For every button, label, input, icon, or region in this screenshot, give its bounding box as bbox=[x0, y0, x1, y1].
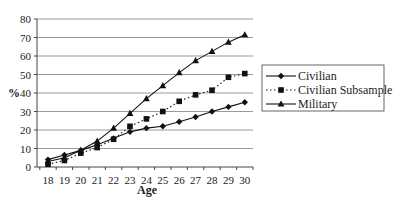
square-marker bbox=[278, 87, 284, 93]
series-group bbox=[45, 31, 249, 167]
square-marker bbox=[242, 71, 248, 77]
x-tick-label: 26 bbox=[174, 174, 186, 186]
y-tick-label: 30 bbox=[20, 106, 32, 118]
diamond-marker bbox=[176, 118, 182, 124]
x-tick-label: 27 bbox=[190, 174, 202, 186]
legend: CivilianCivilian SubsampleMilitary bbox=[262, 65, 392, 111]
triangle-marker bbox=[209, 48, 216, 54]
x-axis-label: Age bbox=[137, 183, 158, 197]
square-marker bbox=[193, 92, 199, 98]
diamond-marker bbox=[225, 104, 231, 110]
y-tick-label: 0 bbox=[26, 161, 32, 173]
y-tick-label: 50 bbox=[20, 69, 32, 81]
square-marker bbox=[209, 87, 215, 93]
square-marker bbox=[127, 124, 133, 130]
diamond-marker bbox=[242, 99, 248, 105]
triangle-marker bbox=[241, 31, 248, 37]
x-tick-label: 23 bbox=[125, 174, 137, 186]
square-marker bbox=[176, 99, 182, 105]
triangle-marker bbox=[159, 82, 166, 88]
y-axis: 01020304050607080 bbox=[20, 13, 37, 173]
triangle-marker bbox=[192, 57, 199, 63]
y-tick-label: 10 bbox=[20, 143, 32, 155]
square-marker bbox=[144, 116, 150, 122]
square-marker bbox=[111, 136, 117, 142]
diamond-marker bbox=[192, 114, 198, 120]
x-tick-label: 19 bbox=[59, 174, 71, 186]
triangle-marker bbox=[94, 138, 101, 144]
y-tick-label: 40 bbox=[20, 87, 32, 99]
x-tick-label: 29 bbox=[223, 174, 235, 186]
x-tick-label: 21 bbox=[92, 174, 103, 186]
x-tick-label: 25 bbox=[157, 174, 169, 186]
x-tick-label: 18 bbox=[43, 174, 55, 186]
y-tick-label: 60 bbox=[20, 50, 32, 62]
x-tick-label: 20 bbox=[75, 174, 87, 186]
square-marker bbox=[160, 109, 166, 115]
legend-label: Civilian Subsample bbox=[298, 83, 392, 97]
diamond-marker bbox=[209, 108, 215, 114]
y-tick-label: 80 bbox=[20, 13, 32, 25]
legend-label: Military bbox=[298, 97, 337, 111]
triangle-marker bbox=[176, 69, 183, 75]
x-tick-label: 30 bbox=[239, 174, 251, 186]
x-tick-label: 22 bbox=[108, 174, 119, 186]
square-marker bbox=[94, 145, 100, 151]
triangle-marker bbox=[143, 95, 150, 101]
y-tick-label: 20 bbox=[20, 124, 32, 136]
series-military bbox=[45, 31, 249, 164]
y-axis-label: % bbox=[8, 86, 20, 100]
diamond-marker bbox=[160, 123, 166, 129]
square-marker bbox=[226, 74, 232, 80]
line-chart: 01020304050607080 1819202122232425262728… bbox=[0, 0, 395, 210]
legend-label: Civilian bbox=[298, 69, 337, 83]
y-tick-label: 70 bbox=[20, 32, 32, 44]
x-tick-label: 28 bbox=[207, 174, 219, 186]
